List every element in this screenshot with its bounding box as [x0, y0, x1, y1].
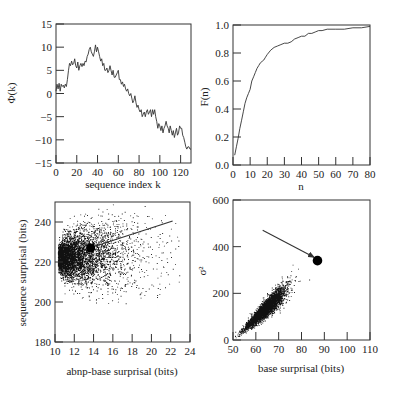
x-tick-label: 22 — [165, 345, 176, 357]
y-axis-ticks: 0200400600 — [213, 194, 242, 346]
cdf-series-line — [235, 26, 370, 155]
x-tick-label: 60 — [250, 343, 262, 355]
y-tick-label: 0.6 — [215, 75, 229, 87]
x-tick-label: 60 — [113, 166, 125, 178]
x-axis-label: sequence index k — [85, 178, 161, 190]
scatter-points — [58, 204, 180, 304]
panel-cdf: 0.00.20.40.60.81.0 01020304050607080 n F… — [198, 19, 376, 192]
y-axis-label: σ² — [196, 266, 208, 276]
x-axis-ticks: 1012141618202224 — [50, 334, 197, 357]
y-tick-label: 400 — [213, 241, 230, 253]
scatter-cloud — [58, 204, 180, 304]
panel-abnp-scatter: 180200220240 1012141618202224 abnp-base … — [16, 202, 196, 378]
x-tick-label: 14 — [88, 345, 100, 357]
y-axis-label: F(n) — [198, 87, 211, 106]
x-tick-label: 0 — [230, 168, 236, 180]
x-tick-label: 18 — [127, 345, 139, 357]
x-tick-label: 80 — [134, 166, 146, 178]
phi-series-line — [56, 45, 191, 149]
y-tick-label: 0.8 — [215, 47, 229, 59]
plot-frame — [56, 24, 191, 163]
x-axis-ticks: 5060708090100110 — [228, 332, 379, 355]
x-tick-label: 10 — [245, 168, 257, 180]
x-tick-label: 70 — [347, 168, 359, 180]
y-tick-label: 0.2 — [215, 131, 229, 143]
x-axis-ticks: 01020304050607080 — [230, 157, 376, 180]
x-tick-label: 40 — [296, 168, 308, 180]
x-tick-label: 50 — [313, 168, 325, 180]
x-tick-label: 16 — [107, 345, 119, 357]
y-axis-ticks: 0.00.20.40.60.81.0 — [215, 19, 241, 171]
plot-frame — [233, 25, 370, 165]
x-axis-label: base surprisal (bits) — [258, 362, 344, 375]
y-axis-ticks: −15−10−5051015 — [35, 18, 64, 169]
y-tick-label: 10 — [41, 41, 53, 53]
y-axis-label: Φ(k) — [5, 82, 18, 103]
highlight-point — [313, 256, 323, 266]
y-axis-label: sequence surprisal (bits) — [16, 219, 29, 326]
y-tick-label: 240 — [35, 216, 52, 228]
scatter-points — [235, 265, 310, 339]
y-tick-label: 5 — [47, 64, 53, 76]
y-tick-label: −15 — [35, 157, 53, 169]
x-tick-label: 70 — [273, 343, 285, 355]
scatter-cloud — [235, 265, 310, 339]
y-tick-label: 0.4 — [215, 103, 229, 115]
x-tick-label: 100 — [339, 343, 356, 355]
x-tick-label: 20 — [262, 168, 274, 180]
panel-sigma-scatter: 0200400600 5060708090100110 base surpris… — [196, 194, 379, 375]
y-tick-label: 1.0 — [215, 19, 229, 31]
x-axis-ticks: 020406080100120 — [53, 155, 189, 178]
x-tick-label: 100 — [152, 166, 169, 178]
x-tick-label: 12 — [69, 345, 80, 357]
x-axis-label: abnp-base surprisal (bits) — [66, 365, 178, 378]
annotation-arrow — [263, 230, 314, 257]
x-axis-label: n — [298, 180, 304, 192]
y-tick-label: −5 — [40, 111, 52, 123]
y-tick-label: 220 — [35, 256, 52, 268]
panel-phi: −15−10−5051015 020406080100120 sequence … — [5, 18, 191, 190]
x-tick-label: 80 — [296, 343, 308, 355]
highlight-point — [86, 244, 95, 253]
y-tick-label: −10 — [35, 134, 53, 146]
x-tick-label: 110 — [362, 343, 379, 355]
x-tick-label: 0 — [53, 166, 59, 178]
y-axis-ticks: 180200220240 — [35, 216, 64, 348]
x-tick-label: 20 — [146, 345, 158, 357]
x-tick-label: 50 — [228, 343, 240, 355]
y-tick-label: 200 — [213, 287, 230, 299]
figure: −15−10−5051015 020406080100120 sequence … — [0, 0, 394, 393]
y-tick-label: 15 — [41, 18, 53, 30]
x-tick-label: 80 — [365, 168, 377, 180]
x-tick-label: 10 — [50, 345, 62, 357]
x-tick-label: 60 — [330, 168, 342, 180]
y-tick-label: 200 — [35, 296, 52, 308]
y-tick-label: 600 — [213, 194, 230, 206]
y-tick-label: 0 — [47, 88, 53, 100]
x-tick-label: 120 — [172, 166, 189, 178]
x-tick-label: 90 — [319, 343, 331, 355]
y-tick-label: 0.0 — [215, 159, 229, 171]
x-tick-label: 24 — [185, 345, 197, 357]
x-tick-label: 40 — [92, 166, 104, 178]
x-tick-label: 30 — [279, 168, 291, 180]
x-tick-label: 20 — [71, 166, 83, 178]
